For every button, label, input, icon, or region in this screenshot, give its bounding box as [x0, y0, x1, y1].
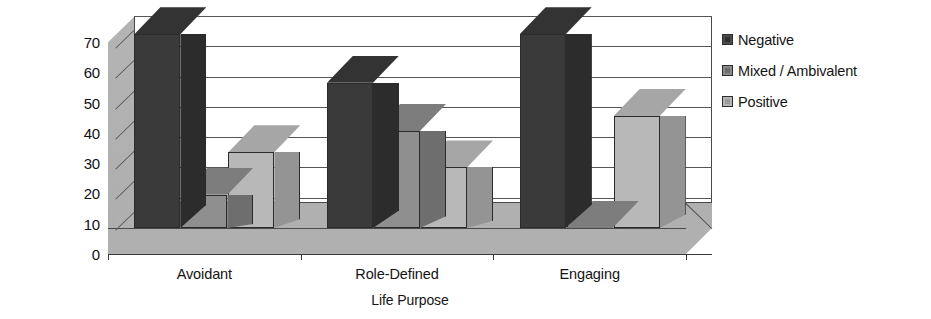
- y-tick-label: 60: [64, 64, 100, 81]
- bar-side-face: [566, 34, 592, 228]
- chart-figure: Worldview Percentage within Life Purpose…: [0, 0, 931, 319]
- gridline: [134, 77, 712, 78]
- y-tick-label: 30: [64, 155, 100, 172]
- legend-swatch-icon: [722, 96, 733, 107]
- gridline: [134, 16, 712, 17]
- legend-item: Mixed / Ambivalent: [722, 55, 922, 86]
- bar-side-face: [180, 34, 206, 228]
- legend-item: Positive: [722, 86, 922, 117]
- bar-role-defined-negative: [327, 83, 373, 228]
- x-tick-mark: [301, 254, 302, 260]
- legend-label: Positive: [738, 94, 788, 110]
- x-tick-label: Engaging: [510, 266, 670, 282]
- bar-avoidant-negative: [134, 34, 180, 228]
- y-tick-label: 50: [64, 94, 100, 111]
- legend-swatch-icon: [722, 34, 733, 45]
- plot-area: [108, 16, 712, 254]
- y-tick-label: 0: [64, 246, 100, 263]
- bar-front-face: [134, 34, 180, 228]
- x-tick-label: Avoidant: [124, 266, 284, 282]
- legend-item: Negative: [722, 24, 922, 55]
- bar-side-face: [467, 167, 493, 228]
- bar-front-face: [520, 34, 566, 228]
- legend-label: Mixed / Ambivalent: [738, 63, 857, 79]
- bar-side-face: [660, 116, 686, 228]
- bar-engaging-negative: [520, 34, 566, 228]
- x-tick-mark: [493, 254, 494, 260]
- legend-label: Negative: [738, 32, 794, 48]
- bar-side-face: [420, 131, 446, 228]
- x-axis-title: Life Purpose: [108, 292, 712, 308]
- y-tick-label: 10: [64, 215, 100, 232]
- x-tick-mark: [686, 254, 687, 260]
- plot-floor-right-edge: [685, 202, 713, 229]
- y-tick-label: 20: [64, 185, 100, 202]
- x-tick-label: Role-Defined: [317, 266, 477, 282]
- bar-front-face: [327, 83, 373, 228]
- chart-legend: NegativeMixed / AmbivalentPositive: [722, 24, 922, 117]
- y-tick-label: 40: [64, 124, 100, 141]
- x-axis: AvoidantRole-DefinedEngaging: [108, 254, 712, 256]
- bar-side-face: [373, 83, 399, 228]
- plot-floor-front-edge: [108, 228, 686, 229]
- y-tick-label: 70: [64, 34, 100, 51]
- x-axis-line: [108, 254, 712, 255]
- gridline: [134, 46, 712, 47]
- bar-side-face: [227, 195, 253, 228]
- x-tick-mark: [108, 254, 109, 260]
- bar-side-face: [274, 152, 300, 228]
- y-axis-ticks: 010203040506070: [60, 0, 100, 319]
- legend-swatch-icon: [722, 65, 733, 76]
